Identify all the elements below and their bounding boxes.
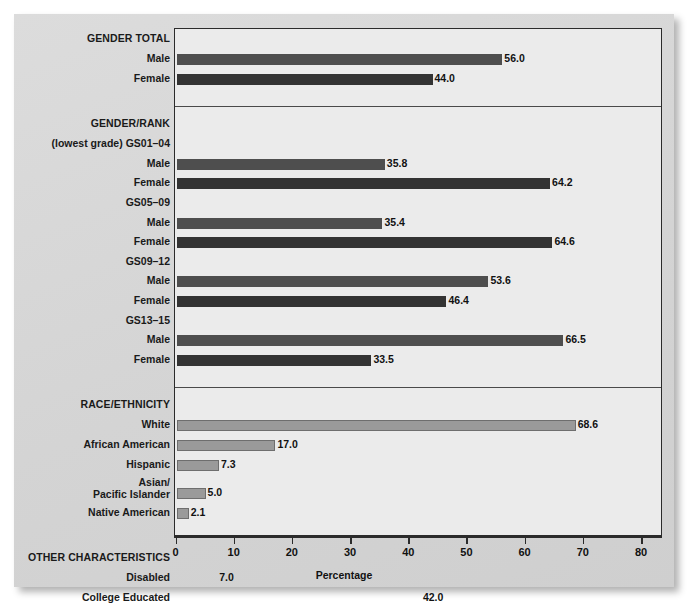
category-label: Asian/Pacific Islander bbox=[0, 477, 170, 500]
x-axis-title: Percentage bbox=[0, 569, 688, 581]
x-tick-label: 80 bbox=[635, 546, 647, 558]
x-tick-label: 50 bbox=[460, 546, 472, 558]
x-tick bbox=[525, 538, 527, 544]
bar-hispanic bbox=[177, 460, 219, 471]
bar-male bbox=[177, 218, 383, 229]
category-label: Female bbox=[0, 177, 170, 188]
bar-value-label: 2.1 bbox=[191, 507, 206, 518]
subgroup-label: GS05–09 bbox=[0, 197, 170, 208]
bar-white bbox=[177, 420, 576, 431]
section-heading: OTHER CHARACTERISTICS bbox=[0, 552, 170, 563]
bar-value-label: 17.0 bbox=[277, 439, 297, 450]
chart-figure: GENDER TOTALMaleFemaleGENDER/RANK(lowest… bbox=[0, 0, 688, 612]
category-label: Male bbox=[0, 334, 170, 345]
bar-value-label: 7.3 bbox=[221, 459, 236, 470]
bar-female bbox=[177, 237, 553, 248]
category-label-line: Pacific Islander bbox=[0, 489, 170, 501]
x-tick-label: 0 bbox=[172, 546, 178, 558]
subgroup-label: GS13–15 bbox=[0, 315, 170, 326]
section-separator bbox=[175, 106, 661, 107]
x-tick bbox=[292, 538, 294, 544]
bar-value-label: 44.0 bbox=[435, 73, 455, 84]
bar-asian-pacific-islander bbox=[177, 488, 206, 499]
category-label: Male bbox=[0, 217, 170, 228]
category-label: Female bbox=[0, 73, 170, 84]
bar-female bbox=[177, 178, 551, 189]
bar-value-label: 68.6 bbox=[578, 419, 598, 430]
category-label: African American bbox=[0, 439, 170, 450]
category-label: Female bbox=[0, 236, 170, 247]
category-label: Male bbox=[0, 158, 170, 169]
x-tick bbox=[234, 538, 236, 544]
bar-value-label: 35.4 bbox=[384, 217, 404, 228]
bar-value-label: 64.6 bbox=[554, 236, 574, 247]
x-tick bbox=[466, 538, 468, 544]
bar-value-label: 64.2 bbox=[552, 177, 572, 188]
x-tick bbox=[641, 538, 643, 544]
x-tick-label: 10 bbox=[228, 546, 240, 558]
bar-male bbox=[177, 159, 385, 170]
x-tick-label: 20 bbox=[286, 546, 298, 558]
section-heading: RACE/ETHNICITY bbox=[0, 399, 170, 410]
category-label-line: Asian/ bbox=[0, 477, 170, 489]
bar-male bbox=[177, 276, 489, 287]
x-axis-line bbox=[174, 536, 662, 538]
bar-african-american bbox=[177, 440, 276, 451]
section-heading: GENDER/RANK bbox=[0, 118, 170, 129]
x-tick-label: 40 bbox=[402, 546, 414, 558]
subgroup-label: (lowest grade) GS01–04 bbox=[0, 138, 170, 149]
bar-value-label: 46.4 bbox=[448, 295, 468, 306]
bar-female bbox=[177, 296, 447, 307]
category-label: Male bbox=[0, 53, 170, 64]
x-tick-label: 60 bbox=[519, 546, 531, 558]
bar-value-label: 66.5 bbox=[565, 334, 585, 345]
x-tick bbox=[176, 538, 178, 544]
bar-female bbox=[177, 74, 433, 85]
section-heading: GENDER TOTAL bbox=[0, 33, 170, 44]
category-label: College Educated bbox=[0, 592, 170, 603]
bar-native-american bbox=[177, 508, 189, 519]
bar-value-label: 5.0 bbox=[208, 487, 223, 498]
bar-female bbox=[177, 355, 372, 366]
x-tick bbox=[408, 538, 410, 544]
category-label: White bbox=[0, 419, 170, 430]
x-tick bbox=[583, 538, 585, 544]
subgroup-label: GS09–12 bbox=[0, 256, 170, 267]
plot-area bbox=[174, 28, 662, 536]
bar-male bbox=[177, 335, 564, 346]
plot-inner bbox=[175, 29, 661, 535]
category-label: Female bbox=[0, 354, 170, 365]
category-label: Native American bbox=[0, 507, 170, 518]
category-label: Hispanic bbox=[0, 459, 170, 470]
bar-value-label: 42.0 bbox=[423, 592, 443, 603]
bar-male bbox=[177, 54, 503, 65]
x-tick bbox=[350, 538, 352, 544]
bar-value-label: 56.0 bbox=[504, 53, 524, 64]
bar-value-label: 33.5 bbox=[373, 354, 393, 365]
x-tick-label: 30 bbox=[344, 546, 356, 558]
section-separator bbox=[175, 387, 661, 388]
category-label: Male bbox=[0, 275, 170, 286]
x-tick-label: 70 bbox=[577, 546, 589, 558]
bar-value-label: 53.6 bbox=[490, 275, 510, 286]
bar-value-label: 35.8 bbox=[387, 158, 407, 169]
category-label: Female bbox=[0, 295, 170, 306]
